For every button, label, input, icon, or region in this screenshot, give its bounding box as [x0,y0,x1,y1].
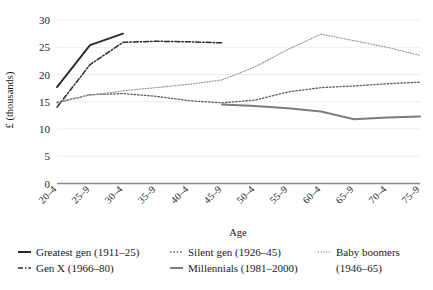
x-tick-label: 60–4 [300,184,322,206]
x-axis-tick-labels: 20–425–930–435–940–445–950–455–960–465–9… [36,184,421,206]
legend: Greatest gen (1911–25)Silent gen (1926–4… [18,246,400,275]
x-axis-title: Age [229,227,247,238]
y-tick-label: 10 [39,123,51,135]
x-tick-label: 40–4 [168,184,190,206]
x-tick-label: 25–9 [69,184,91,206]
generation-income-line-chart: 051015202530 20–425–930–435–940–445–950–… [0,0,433,290]
y-tick-label: 5 [45,150,51,162]
legend-label: Millennials (1981–2000) [188,262,298,275]
x-tick-label: 30–4 [102,184,124,206]
series-line [57,34,420,102]
y-tick-label: 25 [39,41,51,53]
x-tick-label: 20–4 [36,184,58,206]
y-tick-label: 15 [39,96,51,108]
series-line [222,104,420,119]
x-tick-label: 45–9 [201,184,223,206]
y-tick-label: 30 [39,14,51,26]
series-line [57,34,123,87]
x-tick-label: 35–9 [135,184,157,206]
data-series-group [57,34,420,120]
x-tick-label: 65–9 [333,184,355,206]
legend-label-continued: (1946–65) [336,262,382,275]
chart-canvas: 051015202530 20–425–930–435–940–445–950–… [0,0,433,290]
x-tick-label: 55–9 [267,184,289,206]
legend-label: Gen X (1966–80) [36,262,114,275]
legend-label: Greatest gen (1911–25) [36,246,140,259]
legend-label: Silent gen (1926–45) [188,246,281,259]
x-tick-label: 50–4 [234,184,256,206]
gridlines-group [57,20,420,156]
x-tick-label: 70–4 [366,184,388,206]
x-tick-label: 75–9 [399,184,421,206]
y-axis-title: £ (thousands) [4,71,16,128]
legend-label: Baby boomers [336,246,400,258]
y-axis-tick-labels: 051015202530 [39,14,51,190]
y-tick-label: 20 [39,69,51,81]
